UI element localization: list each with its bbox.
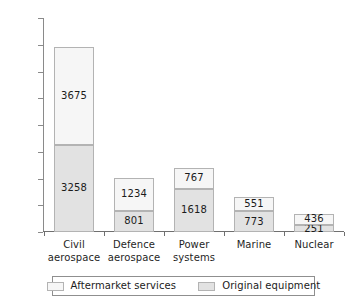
bar-value-label: 3258 — [61, 182, 87, 194]
stacked-bar-chart: 800070006000500040003000200010000 325836… — [0, 0, 357, 307]
y-axis-tick-mark — [38, 45, 43, 46]
x-axis-category-label: Civil aerospace — [44, 238, 104, 264]
bar-segment-original-equipment[interactable]: 801 — [114, 211, 154, 232]
y-axis-tick-mark — [38, 72, 43, 73]
legend-item[interactable]: Original equipment — [198, 280, 320, 292]
x-axis-tick-mark — [104, 232, 105, 236]
legend-swatch — [47, 282, 64, 291]
bar-segment-aftermarket-services[interactable]: 1234 — [114, 178, 154, 211]
legend-label: Original equipment — [222, 280, 320, 292]
bar-segment-original-equipment[interactable]: 251 — [294, 225, 334, 232]
bar-segment-original-equipment[interactable]: 1618 — [174, 189, 214, 232]
plot-area: 3258367580112341618767773551251436 — [44, 18, 344, 232]
x-axis-tick-mark — [344, 232, 345, 236]
bar-group[interactable]: 773551 — [234, 18, 274, 232]
bar-group[interactable]: 8011234 — [114, 18, 154, 232]
bar-value-label: 1618 — [181, 204, 207, 216]
bar-group[interactable]: 32583675 — [54, 18, 94, 232]
bar-value-label: 767 — [184, 172, 204, 184]
bar-value-label: 3675 — [61, 90, 87, 102]
y-axis-tick-mark — [38, 98, 43, 99]
bar-segment-aftermarket-services[interactable]: 551 — [234, 197, 274, 212]
y-axis-tick-mark — [38, 179, 43, 180]
x-axis-tick-mark — [224, 232, 225, 236]
bar-segment-aftermarket-services[interactable]: 767 — [174, 168, 214, 189]
bar-value-label: 773 — [244, 216, 264, 228]
bar-value-label: 801 — [124, 215, 144, 227]
x-axis-category-label: Power systems — [164, 238, 224, 264]
bar-value-label: 551 — [244, 198, 264, 210]
bar-segment-original-equipment[interactable]: 773 — [234, 211, 274, 232]
bar-segment-aftermarket-services[interactable]: 3675 — [54, 47, 94, 145]
x-axis-tick-mark — [284, 232, 285, 236]
x-axis-category-label: Nuclear — [284, 238, 344, 251]
x-axis-category-label: Marine — [224, 238, 284, 251]
bar-value-label: 1234 — [121, 188, 147, 200]
legend-item[interactable]: Aftermarket services — [47, 280, 177, 292]
x-axis-tick-mark — [164, 232, 165, 236]
legend-label: Aftermarket services — [71, 280, 177, 292]
y-axis-tick-mark — [38, 232, 43, 233]
bar-group[interactable]: 1618767 — [174, 18, 214, 232]
bar-value-label: 436 — [304, 213, 324, 225]
y-axis-tick-mark — [38, 205, 43, 206]
bar-segment-aftermarket-services[interactable]: 436 — [294, 214, 334, 226]
bar-group[interactable]: 251436 — [294, 18, 334, 232]
bar-segment-original-equipment[interactable]: 3258 — [54, 145, 94, 232]
legend-swatch — [198, 282, 215, 291]
y-axis-tick-mark — [38, 125, 43, 126]
chart-legend: Aftermarket servicesOriginal equipment — [52, 276, 315, 296]
x-axis-tick-mark — [44, 232, 45, 236]
x-axis-category-label: Defence aerospace — [104, 238, 164, 264]
y-axis-tick-mark — [38, 152, 43, 153]
y-axis-tick-mark — [38, 18, 43, 19]
